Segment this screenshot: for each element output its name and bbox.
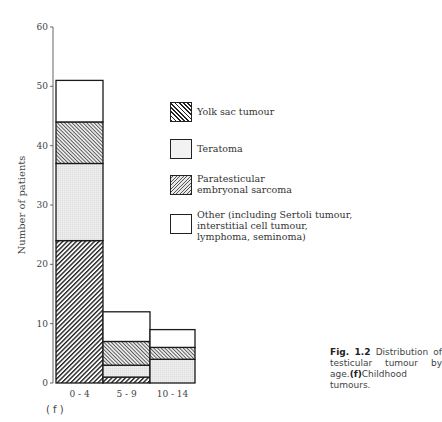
bar-segment [150,359,195,383]
figure-number: Fig. 1.2 [330,347,370,357]
legend-label: Paratesticular embryonal sarcoma [197,173,292,195]
x-tick-label: 10 - 14 [157,389,189,399]
panel-ref: (f) [350,369,362,379]
bar-segment [103,377,150,383]
bar-segment [56,122,103,164]
bar-segment [56,80,103,122]
bar-segment [150,330,195,348]
legend-item-yolk-sac: Yolk sac tumour [170,102,274,122]
y-tick-label: 10 [37,319,49,329]
legend-label: Teratoma [197,143,243,154]
panel-label: ( f ) [46,404,64,415]
y-tick-label: 0 [42,378,48,388]
bar-0-4 [56,80,103,383]
paratesticular-swatch [170,175,192,195]
y-tick-label: 20 [37,259,49,269]
other-swatch [170,214,192,234]
bar-segment [103,341,150,365]
y-tick-label: 30 [37,200,49,210]
x-tick-label: 5 - 9 [116,389,136,399]
y-tick-label: 50 [37,81,49,91]
bar-segment [150,347,195,359]
figure-caption: Fig. 1.2 Distribution of testicular tumo… [330,347,442,391]
yolk-sac-swatch [170,102,192,122]
legend-label: Other (including Sertoli tumour, interst… [197,209,352,242]
legend-item-other: Other (including Sertoli tumour, interst… [170,210,352,242]
bar-segment [103,365,150,377]
legend-label: Yolk sac tumour [197,106,274,117]
legend-item-paratesticular: Paratesticular embryonal sarcoma [170,175,292,195]
y-tick-label: 40 [37,141,49,151]
y-tick-label: 60 [37,22,49,32]
y-axis-label: Number of patients [16,156,27,255]
bar-10-14 [150,330,195,383]
teratoma-swatch [170,139,192,159]
legend-item-teratoma: Teratoma [170,139,243,159]
bar-segment [103,312,150,342]
y-axis: 0102030405060 [37,22,53,388]
bar-5-9 [103,312,150,383]
bar-segment [56,241,103,383]
x-tick-label: 0 - 4 [69,389,89,399]
bar-segment [56,163,103,240]
x-axis-labels: 0 - 45 - 910 - 14 [69,389,188,399]
